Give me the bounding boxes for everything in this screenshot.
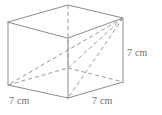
diagonals-group	[8, 18, 123, 98]
cube-figure: 7 cm 7 cm 7 cm	[0, 0, 162, 115]
height-label: 7 cm	[127, 48, 148, 58]
depth-label: 7 cm	[9, 96, 30, 106]
bottom-back-left-hidden-edge	[8, 68, 68, 85]
space-diagonal	[8, 18, 123, 85]
bottom-back-right-hidden-edge	[68, 68, 123, 82]
back-face-diagonal	[68, 18, 123, 68]
right-face-diagonal	[68, 18, 123, 98]
width-label: 7 cm	[92, 96, 113, 106]
